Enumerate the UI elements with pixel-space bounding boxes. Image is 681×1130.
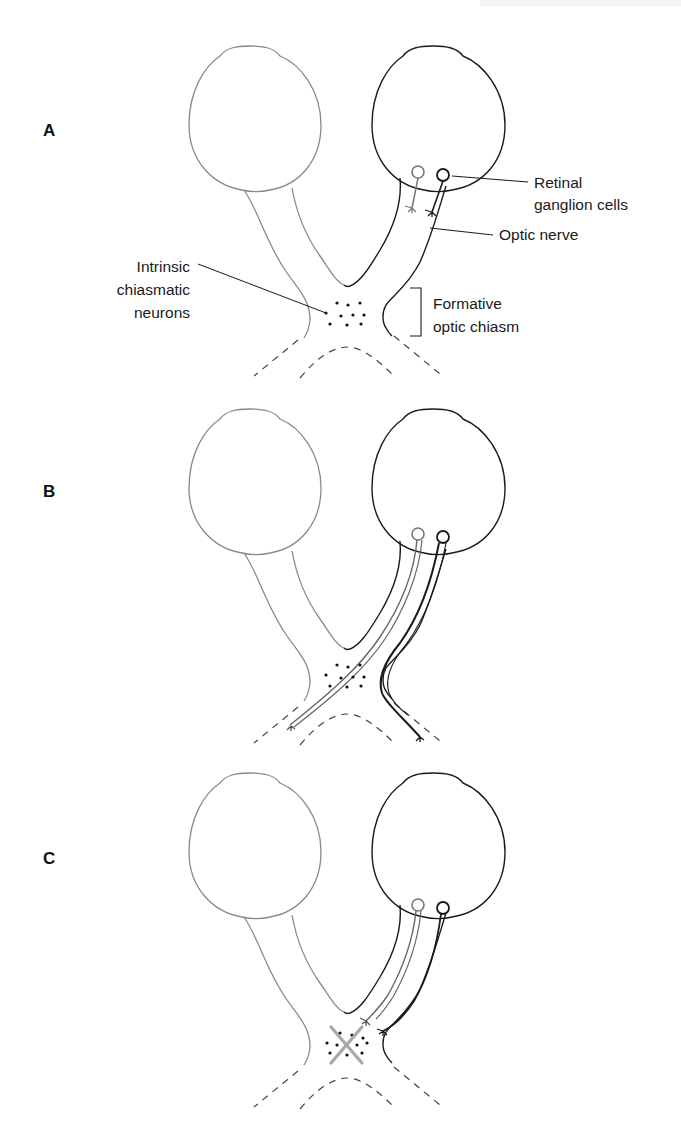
bracket-formative-chiasm	[410, 288, 421, 336]
left-eye	[189, 46, 344, 338]
optic-chiasm-diagram: A Retinal ganglion cells Optic nerve	[0, 0, 681, 1130]
right-eye	[344, 46, 505, 336]
ipsilateral-axon-dark	[381, 531, 449, 742]
label-ganglion-cells: ganglion cells	[534, 196, 628, 213]
label-retinal: Retinal	[534, 174, 582, 191]
label-chiasmatic: chiasmatic	[117, 281, 190, 298]
leader-line-optic-nerve	[430, 228, 493, 235]
label-neurons: neurons	[134, 304, 190, 321]
leader-line-chiasmatic-neurons	[198, 264, 326, 313]
label-optic-nerve: Optic nerve	[499, 226, 578, 243]
chiasm-dashed-outline	[254, 336, 440, 378]
chiasm-dashed-outline	[254, 1067, 440, 1109]
panel-a: A Retinal ganglion cells Optic nerve	[43, 46, 628, 378]
label-formative: Formative	[433, 295, 502, 312]
left-eye	[189, 409, 344, 701]
intrinsic-chiasmatic-neurons-dots	[324, 301, 365, 326]
chiasm-dashed-outline	[254, 703, 440, 745]
panel-label-a: A	[43, 121, 55, 140]
leader-line-rgc	[452, 176, 528, 182]
panel-label-b: B	[43, 482, 55, 501]
crossing-axon-gray	[287, 528, 424, 731]
stalled-axon-dark	[377, 902, 449, 1036]
left-eye	[189, 773, 344, 1065]
label-optic-chiasm: optic chiasm	[433, 318, 519, 335]
panel-c: C	[43, 773, 505, 1109]
panel-label-c: C	[43, 849, 55, 868]
stalled-axon-gray	[360, 899, 424, 1026]
right-eye	[344, 409, 505, 699]
label-intrinsic: Intrinsic	[137, 258, 191, 275]
panel-b: B	[43, 409, 505, 745]
retinal-ganglion-cell-dark	[425, 169, 449, 217]
